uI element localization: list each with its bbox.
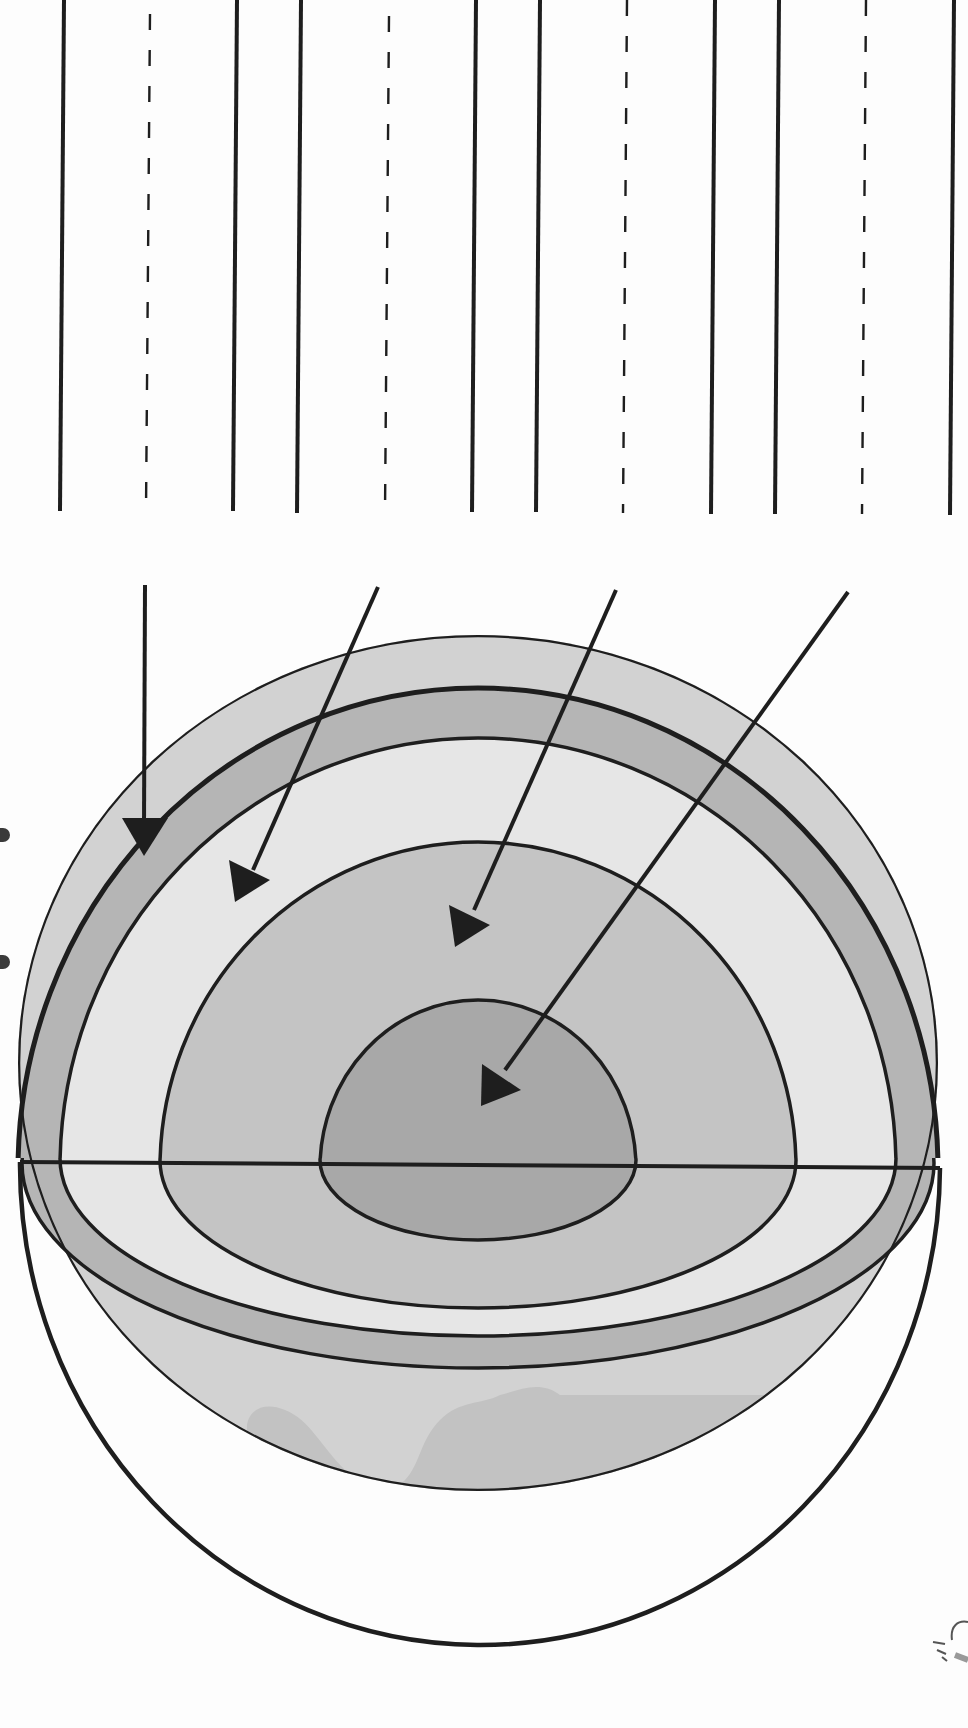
solid-line bbox=[60, 0, 64, 511]
dashed-midline bbox=[146, 14, 150, 511]
label-row-1[interactable] bbox=[60, 0, 237, 511]
label-row-3[interactable] bbox=[536, 0, 715, 514]
label-row-2[interactable] bbox=[297, 0, 476, 513]
solid-line bbox=[233, 0, 237, 511]
solid-line bbox=[775, 0, 779, 514]
earth-sphere bbox=[18, 635, 968, 1728]
earth-layers-diagram bbox=[0, 0, 968, 1728]
label-row-4[interactable] bbox=[775, 0, 954, 515]
writing-lines bbox=[60, 0, 954, 515]
solid-line bbox=[472, 0, 476, 512]
solid-line bbox=[297, 0, 301, 513]
dashed-midline bbox=[385, 16, 389, 513]
solid-line bbox=[711, 0, 715, 514]
margin-scribble-icon bbox=[933, 1622, 968, 1661]
dashed-midline bbox=[862, 0, 866, 514]
solid-line bbox=[950, 0, 954, 515]
solid-line bbox=[536, 0, 540, 512]
dashed-midline bbox=[623, 0, 627, 513]
earth-layers-worksheet: Layers of the Earth bbox=[0, 0, 968, 1728]
